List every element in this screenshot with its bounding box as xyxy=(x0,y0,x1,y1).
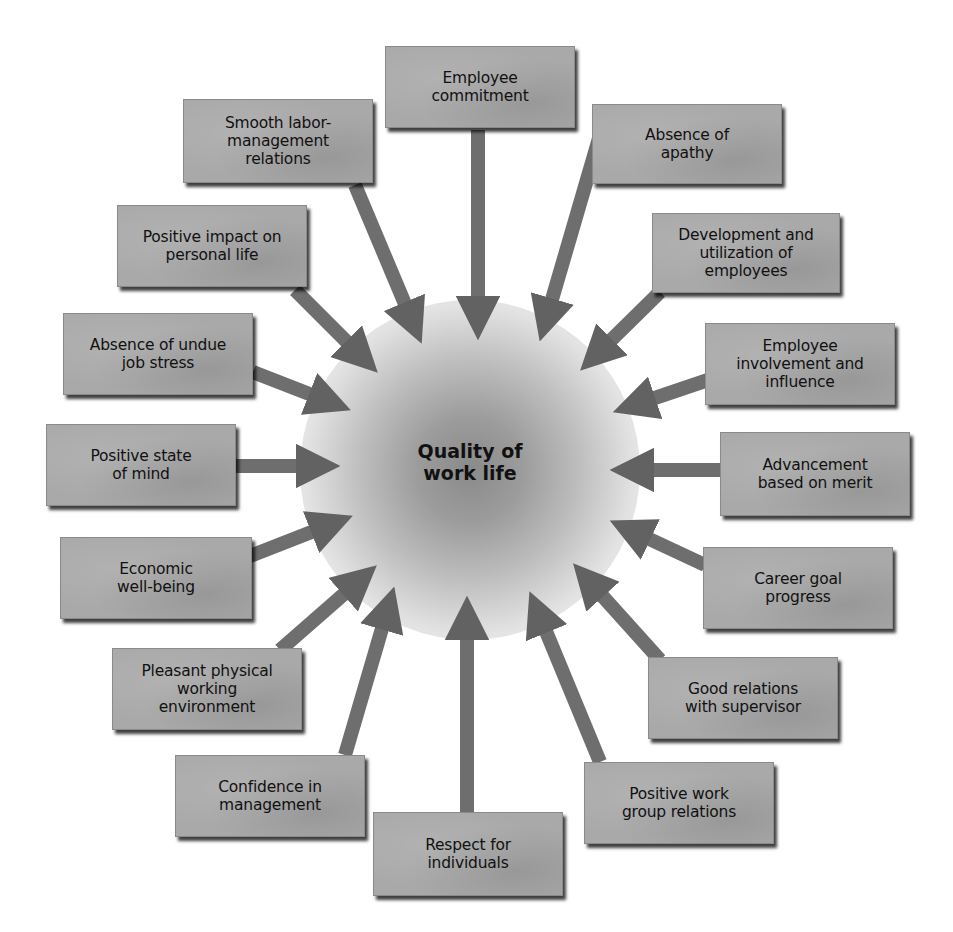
factor-confidence-management: Confidence in management xyxy=(175,755,365,837)
factor-absence-job-stress: Absence of undue job stress xyxy=(63,313,253,395)
factor-advancement-merit: Advancement based on merit xyxy=(720,432,910,516)
arrow-employee-involvement xyxy=(634,380,708,405)
factor-career-goal-progress: Career goal progress xyxy=(703,547,893,629)
factor-label: Positive work group relations xyxy=(622,785,736,821)
factor-positive-impact-personal-life: Positive impact on personal life xyxy=(117,205,307,287)
factor-label: Economic well-being xyxy=(117,560,195,596)
arrow-absence-job-stress xyxy=(253,372,330,402)
factor-employee-involvement: Employee involvement and influence xyxy=(705,323,895,405)
arrow-smooth-labor-relations xyxy=(355,185,413,323)
factor-label: Pleasant physical working environment xyxy=(141,662,272,716)
factor-employee-commitment: Employee commitment xyxy=(385,46,575,128)
arrow-confidence-management xyxy=(345,608,388,755)
factor-label: Employee involvement and influence xyxy=(736,337,863,391)
factor-label: Advancement based on merit xyxy=(758,456,873,492)
factor-label: Confidence in management xyxy=(218,778,322,814)
factor-development-utilization: Development and utilization of employees xyxy=(652,213,840,293)
arrow-positive-impact-personal-life xyxy=(295,290,362,357)
factor-label: Absence of apathy xyxy=(645,126,729,162)
factor-label: Good relations with supervisor xyxy=(685,680,801,716)
arrow-economic-well-being xyxy=(250,524,332,556)
factor-label: Positive state of mind xyxy=(90,447,191,483)
factor-respect-individuals: Respect for individuals xyxy=(373,812,563,896)
factor-good-relations-supervisor: Good relations with supervisor xyxy=(648,657,838,739)
factor-positive-work-group: Positive work group relations xyxy=(584,762,774,844)
factor-label: Career goal progress xyxy=(754,570,842,606)
arrow-career-goal-progress xyxy=(630,530,705,565)
arrow-positive-work-group xyxy=(538,612,600,762)
quality-of-work-life-diagram: Quality of work life xyxy=(0,0,953,932)
factor-absence-of-apathy: Absence of apathy xyxy=(592,104,782,184)
arrow-development-utilization xyxy=(596,292,660,355)
factor-label: Positive impact on personal life xyxy=(143,228,282,264)
arrow-good-relations-supervisor xyxy=(588,580,660,660)
factor-label: Respect for individuals xyxy=(425,836,511,872)
factor-label: Employee commitment xyxy=(431,69,528,105)
factor-label: Absence of undue job stress xyxy=(90,336,226,372)
factor-pleasant-environment: Pleasant physical working environment xyxy=(112,648,302,730)
arrow-pleasant-environment xyxy=(280,580,360,650)
factor-smooth-labor-relations: Smooth labor- management relations xyxy=(183,99,373,183)
factor-label: Smooth labor- management relations xyxy=(225,114,331,168)
factor-positive-state-of-mind: Positive state of mind xyxy=(46,424,236,506)
factor-economic-well-being: Economic well-being xyxy=(60,537,252,619)
factor-label: Development and utilization of employees xyxy=(678,226,813,280)
